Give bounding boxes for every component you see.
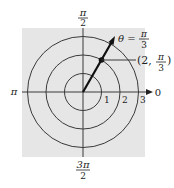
svg-text:2: 2: [80, 18, 86, 28]
svg-text:3π: 3π: [77, 159, 90, 170]
svg-text:π: π: [157, 52, 165, 62]
svg-text:3: 3: [141, 40, 147, 50]
label-3pi-over-2: 3π 2: [76, 159, 90, 181]
polar-diagram: π 2 π 0 3π 2 1 2 3 θ = π 3 (2, π 3 ): [0, 0, 174, 188]
radius-label-1: 1: [104, 95, 110, 105]
svg-text:π: π: [79, 7, 87, 18]
svg-text:2: 2: [80, 171, 86, 181]
svg-text:3: 3: [158, 63, 164, 73]
radius-label-3: 3: [140, 95, 146, 105]
svg-text:π: π: [140, 29, 148, 39]
svg-text:θ =: θ =: [118, 33, 136, 44]
polar-axis-arrow-icon: [146, 89, 153, 95]
svg-text:(2,: (2,: [137, 54, 152, 67]
label-pi-over-2: π 2: [78, 7, 88, 28]
radius-label-2: 2: [122, 95, 128, 105]
svg-text:): ): [167, 54, 171, 67]
label-zero: 0: [155, 87, 161, 98]
label-pi: π: [10, 86, 18, 97]
